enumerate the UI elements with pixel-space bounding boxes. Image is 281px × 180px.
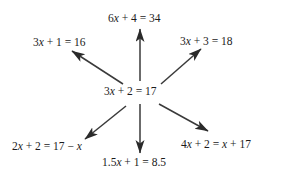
arrow-down-right xyxy=(159,104,208,131)
arrow-up-left xyxy=(72,51,123,84)
equation-lower-right: 4x + 2 = x + 17 xyxy=(181,139,251,151)
arrow-up-right xyxy=(161,49,201,84)
equation-upper-right: 3x + 3 = 18 xyxy=(180,36,233,48)
equation-top: 6x + 4 = 34 xyxy=(108,13,161,25)
equation-center: 3x + 2 = 17 xyxy=(104,86,157,98)
equation-bottom: 1.5x + 1 = 8.5 xyxy=(102,157,166,169)
arrow-down-left xyxy=(85,106,126,139)
equation-lower-left: 2x + 2 = 17 − x xyxy=(12,141,82,153)
equation-upper-left: 3x + 1 = 16 xyxy=(33,37,86,49)
equation-diagram: 3x + 2 = 17 6x + 4 = 34 3x + 1 = 16 3x +… xyxy=(0,0,281,180)
